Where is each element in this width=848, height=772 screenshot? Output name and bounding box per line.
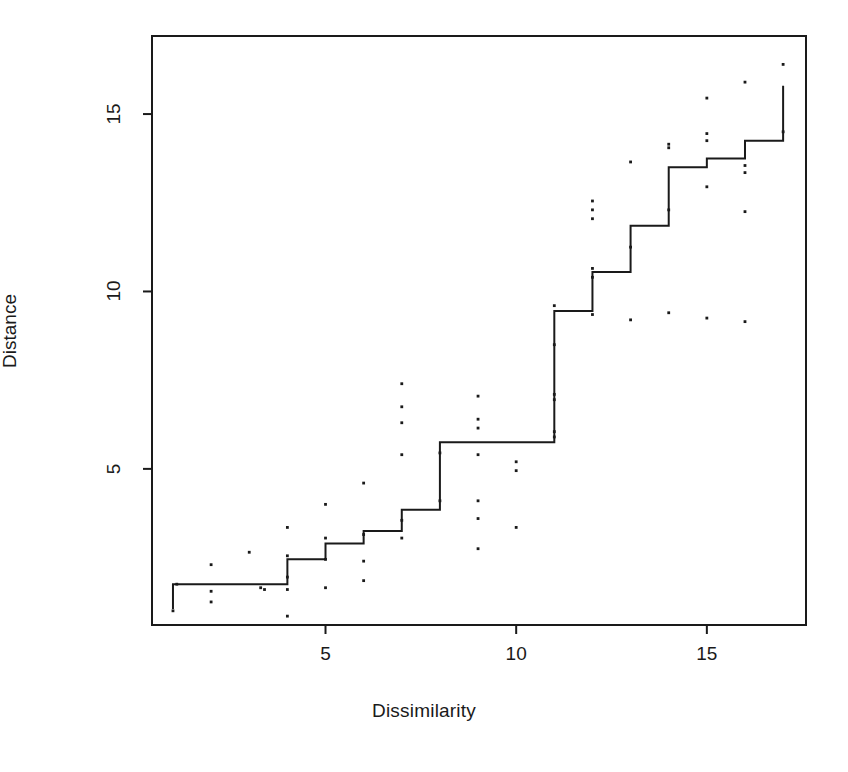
- y-tick-label-5: 5: [103, 449, 125, 489]
- scatter-points: [172, 63, 785, 618]
- y-tick-label-10: 10: [103, 271, 125, 311]
- x-axis-title: Dissimilarity: [0, 700, 848, 722]
- plot-frame: [152, 36, 806, 625]
- x-tick-label-15: 15: [687, 643, 727, 665]
- y-axis-title: Distance: [0, 261, 21, 401]
- shepard-diagram-figure: Dissimilarity Distance 5101551015: [0, 0, 848, 772]
- axis-ticks: [143, 114, 707, 634]
- x-tick-label-10: 10: [496, 643, 536, 665]
- isotonic-step-line: [173, 86, 783, 609]
- y-tick-label-15: 15: [103, 94, 125, 134]
- x-tick-label-5: 5: [306, 643, 346, 665]
